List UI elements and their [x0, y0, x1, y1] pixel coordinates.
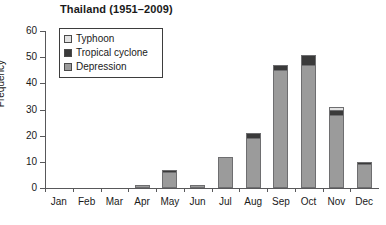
y-axis-title: Frequency	[0, 60, 6, 107]
bar-may	[162, 170, 177, 188]
x-tick-label-jun: Jun	[184, 196, 212, 207]
chart-title: Thailand (1951–2009)	[60, 3, 173, 15]
legend-swatch-typhoon	[64, 35, 72, 43]
legend-swatch-depression	[64, 63, 72, 71]
x-tick-oct	[295, 188, 296, 192]
x-tick-label-mar: Mar	[101, 196, 129, 207]
legend-item-typhoon: Typhoon	[64, 32, 158, 46]
bar-segment-jul-depression	[218, 157, 233, 188]
x-tick-jul	[212, 188, 213, 192]
bar-aug	[246, 133, 261, 188]
bar-segment-aug-depression	[246, 138, 261, 188]
bar-segment-jun-depression	[190, 185, 205, 188]
legend-label-depression: Depression	[76, 62, 127, 72]
x-tick-label-aug: Aug	[239, 196, 267, 207]
bar-segment-nov-depression	[329, 115, 344, 188]
y-tick-label-10: 10	[11, 157, 37, 167]
bar-oct	[301, 55, 316, 188]
x-tick-sep	[267, 188, 268, 192]
x-tick-label-oct: Oct	[295, 196, 323, 207]
bar-segment-apr-depression	[135, 185, 150, 188]
y-tick-label-40: 40	[11, 78, 37, 88]
y-tick-label-20: 20	[11, 131, 37, 141]
x-tick-aug	[239, 188, 240, 192]
bar-jul	[218, 157, 233, 188]
y-tick-label-60: 60	[11, 26, 37, 36]
bar-dec	[357, 162, 372, 188]
legend-item-depression: Depression	[64, 60, 158, 74]
x-tick-label-apr: Apr	[128, 196, 156, 207]
legend-swatch-tropical-cyclone	[64, 49, 72, 57]
legend-label-typhoon: Typhoon	[76, 34, 114, 44]
bar-segment-oct-tropical-cyclone	[301, 55, 316, 65]
bar-nov	[329, 107, 344, 188]
x-tick-label-may: May	[156, 196, 184, 207]
y-tick-label-0: 0	[11, 183, 37, 193]
bar-segment-oct-depression	[301, 65, 316, 188]
x-tick-nov	[323, 188, 324, 192]
x-tick-label-jul: Jul	[212, 196, 240, 207]
y-tick-label-50: 50	[11, 52, 37, 62]
x-tick-jan	[45, 188, 46, 192]
bar-segment-sep-depression	[273, 70, 288, 188]
x-tick-label-jan: Jan	[45, 196, 73, 207]
bar-apr	[135, 185, 150, 188]
x-tick-jun	[184, 188, 185, 192]
x-tick-apr	[128, 188, 129, 192]
chart-container: Thailand (1951–2009) Frequency 010203040…	[0, 0, 386, 225]
x-tick-may	[156, 188, 157, 192]
x-tick-dec	[350, 188, 351, 192]
bar-segment-may-depression	[162, 172, 177, 188]
x-tick-mar	[101, 188, 102, 192]
legend-item-tropical-cyclone: Tropical cyclone	[64, 46, 158, 60]
x-tick-label-feb: Feb	[73, 196, 101, 207]
x-tick-label-sep: Sep	[267, 196, 295, 207]
chart-legend: Typhoon Tropical cyclone Depression	[59, 28, 163, 78]
x-tick-label-nov: Nov	[323, 196, 351, 207]
x-tick-label-dec: Dec	[350, 196, 378, 207]
legend-label-tropical-cyclone: Tropical cyclone	[76, 48, 148, 58]
bar-segment-dec-depression	[357, 164, 372, 188]
x-tick-feb	[73, 188, 74, 192]
bar-jun	[190, 185, 205, 188]
y-tick-label-30: 30	[11, 105, 37, 115]
bar-sep	[273, 65, 288, 188]
